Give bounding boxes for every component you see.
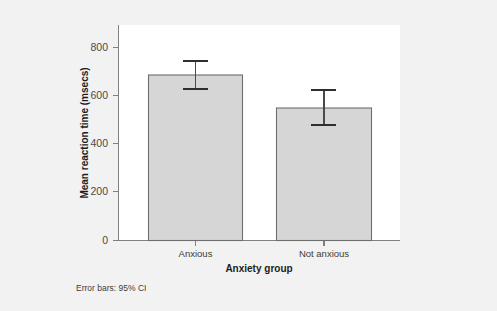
y-tick-label-0: 0 bbox=[102, 234, 108, 246]
bar-chart: 800 600 400 200 0 Mean reaction time (ms… bbox=[0, 0, 497, 311]
y-axis-ticks bbox=[113, 48, 119, 241]
y-tick-label-400: 400 bbox=[90, 137, 108, 149]
x-axis-title: Anxiety group bbox=[225, 263, 292, 274]
bar-not-anxious bbox=[277, 108, 372, 241]
y-tick-label-200: 200 bbox=[90, 185, 108, 197]
y-tick-label-600: 600 bbox=[90, 89, 108, 101]
y-axis-title: Mean reaction time (msecs) bbox=[79, 67, 90, 198]
x-axis-ticks bbox=[196, 241, 325, 247]
x-tick-label-not-anxious: Not anxious bbox=[299, 248, 349, 259]
x-tick-label-anxious: Anxious bbox=[179, 248, 213, 259]
figure-container: 800 600 400 200 0 Mean reaction time (ms… bbox=[0, 0, 497, 311]
bar-anxious bbox=[149, 75, 243, 241]
y-tick-label-800: 800 bbox=[90, 41, 108, 53]
error-bar-footnote: Error bars: 95% CI bbox=[76, 283, 146, 293]
